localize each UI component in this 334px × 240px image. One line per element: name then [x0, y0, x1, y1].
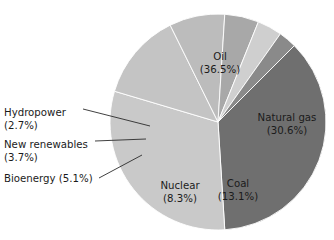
- slice-label-name-new-renewables: New renewables: [4, 139, 88, 150]
- slice-label-value-coal: (13.1%): [218, 191, 258, 202]
- slice-label-name-nuclear: Nuclear: [160, 180, 200, 191]
- slice-label-bioenergy: Bioenergy (5.1%): [4, 173, 93, 184]
- pie-chart-canvas: Oil(36.5%)Natural gas(30.6%)Coal(13.1%)N…: [0, 0, 334, 240]
- pie-chart-figure: Oil(36.5%)Natural gas(30.6%)Coal(13.1%)N…: [0, 0, 334, 240]
- slice-label-value-hydropower: (2.7%): [4, 120, 38, 131]
- slice-label-value-natural-gas: (30.6%): [267, 125, 307, 136]
- slice-label-nuclear: Nuclear(8.3%): [160, 180, 200, 204]
- slice-label-value-new-renewables: (3.7%): [4, 152, 38, 163]
- slice-label-new-renewables: New renewables(3.7%): [4, 139, 88, 163]
- slice-label-hydropower: Hydropower(2.7%): [4, 107, 67, 131]
- slice-label-name-oil: Oil: [213, 51, 227, 62]
- slice-label-value-oil: (36.5%): [200, 64, 240, 75]
- slice-label-name-natural-gas: Natural gas: [258, 112, 317, 123]
- slice-label-name-hydropower: Hydropower: [4, 107, 67, 118]
- slice-label-name-coal: Coal: [227, 178, 249, 189]
- slice-label-value-nuclear: (8.3%): [163, 193, 197, 204]
